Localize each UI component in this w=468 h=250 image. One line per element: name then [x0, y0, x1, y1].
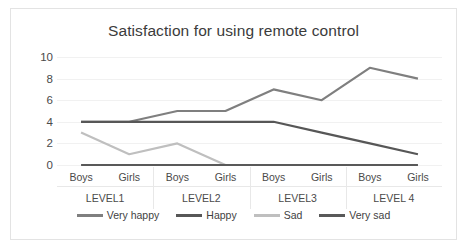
series-line [81, 122, 418, 154]
plot-area [57, 57, 442, 165]
legend-label: Sad [284, 209, 303, 221]
x-axis-tick-label: Girls [394, 171, 442, 183]
series-lines [57, 57, 442, 165]
legend-item[interactable]: Sad [254, 209, 303, 221]
x-axis-group: BoysGirlsLEVEL 4 [346, 167, 442, 209]
y-axis: 0246810 [27, 57, 53, 165]
x-axis-tick-label: Boys [57, 171, 105, 183]
legend-label: Very sad [349, 209, 390, 221]
x-axis-group: BoysGirlsLEVEL3 [250, 167, 346, 209]
legend-label: Very happy [107, 209, 160, 221]
series-line [81, 68, 418, 122]
x-axis-divider [57, 186, 153, 187]
x-axis-subcategories: BoysGirls [57, 167, 153, 186]
x-axis: BoysGirlsLEVEL1BoysGirlsLEVEL2BoysGirlsL… [57, 167, 442, 209]
legend-swatch-icon [319, 214, 345, 217]
x-axis-group-label: LEVEL 4 [346, 186, 442, 209]
legend-swatch-icon [77, 214, 103, 217]
x-axis-group-label: LEVEL2 [153, 186, 249, 209]
x-axis-subcategories: BoysGirls [153, 167, 249, 186]
y-axis-tick-label: 10 [40, 51, 53, 63]
legend-item[interactable]: Happy [176, 209, 236, 221]
y-axis-tick-label: 6 [47, 94, 53, 106]
legend-item[interactable]: Very sad [319, 209, 390, 221]
legend-label: Happy [206, 209, 236, 221]
x-axis-divider [153, 186, 249, 187]
x-axis-subcategories: BoysGirls [250, 167, 346, 186]
y-axis-tick-label: 4 [47, 116, 53, 128]
x-axis-group-label: LEVEL3 [250, 186, 346, 209]
series-line [81, 133, 418, 165]
x-axis-subcategories: BoysGirls [346, 167, 442, 186]
x-axis-group: BoysGirlsLEVEL1 [57, 167, 153, 209]
chart-title: Satisfaction for using remote control [11, 22, 456, 40]
x-axis-divider [346, 186, 442, 187]
x-axis-tick-label: Girls [201, 171, 249, 183]
y-axis-tick-label: 2 [47, 137, 53, 149]
chart-legend: Very happyHappySadVery sad [11, 209, 456, 221]
legend-swatch-icon [176, 214, 202, 217]
x-axis-tick-label: Boys [250, 171, 298, 183]
x-axis-tick-label: Girls [105, 171, 153, 183]
legend-item[interactable]: Very happy [77, 209, 160, 221]
x-axis-group-label: LEVEL1 [57, 186, 153, 209]
legend-swatch-icon [254, 214, 280, 217]
x-axis-tick-label: Boys [346, 171, 394, 183]
x-axis-divider [250, 186, 346, 187]
x-axis-group: BoysGirlsLEVEL2 [153, 167, 249, 209]
x-axis-tick-label: Girls [298, 171, 346, 183]
chart-card: Satisfaction for using remote control 02… [10, 8, 457, 240]
x-axis-tick-label: Boys [153, 171, 201, 183]
y-axis-tick-label: 0 [47, 159, 53, 171]
y-axis-tick-label: 8 [47, 73, 53, 85]
